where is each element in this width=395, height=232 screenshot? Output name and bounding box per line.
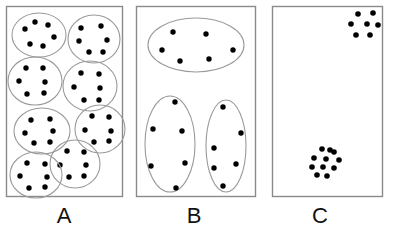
data-dot: [220, 104, 225, 109]
data-dot: [27, 41, 32, 46]
data-dot: [47, 116, 52, 121]
data-dot: [320, 164, 326, 170]
data-dot: [32, 19, 37, 24]
data-dot: [47, 139, 52, 144]
panel-a: [7, 7, 126, 199]
data-dot: [44, 174, 49, 179]
data-dot: [22, 130, 27, 135]
data-dot: [173, 185, 178, 190]
data-dot: [323, 156, 329, 162]
data-dot: [331, 165, 337, 171]
data-dot: [179, 128, 184, 133]
data-dot: [150, 126, 155, 131]
data-dot: [148, 163, 153, 168]
data-dot: [89, 113, 94, 118]
data-dot: [327, 147, 333, 153]
data-dot: [324, 173, 330, 179]
figure-svg: [0, 0, 395, 232]
data-dot: [106, 114, 111, 119]
data-dot: [83, 162, 88, 167]
data-dot: [66, 174, 71, 179]
data-dot: [98, 23, 103, 28]
data-dot: [24, 91, 29, 96]
data-dot: [24, 160, 29, 165]
data-dot: [375, 22, 381, 28]
data-dot: [206, 56, 211, 61]
data-dot: [78, 70, 83, 75]
data-dot: [22, 26, 27, 31]
data-dot: [319, 146, 325, 152]
data-dot: [41, 90, 46, 95]
data-dot: [367, 32, 373, 38]
data-dot: [177, 58, 182, 63]
data-dot: [108, 128, 113, 133]
data-dot: [16, 78, 21, 83]
data-dot: [314, 172, 320, 178]
data-dot: [86, 49, 91, 54]
data-dot: [230, 47, 235, 52]
data-dot: [182, 160, 187, 165]
data-dot: [172, 99, 177, 104]
data-dot: [17, 173, 22, 178]
data-dot: [42, 161, 47, 166]
data-dot: [81, 149, 86, 154]
data-dot: [96, 71, 101, 76]
data-dot: [104, 37, 109, 42]
data-dot: [64, 148, 69, 153]
data-dot: [238, 130, 243, 135]
data-dot: [26, 185, 31, 190]
data-dot: [309, 164, 315, 170]
panel-frame-c: [273, 7, 383, 197]
data-dot: [78, 25, 83, 30]
data-dot: [370, 10, 376, 16]
panel-b: [137, 7, 256, 197]
figure-container: ABC: [0, 0, 395, 232]
data-dot: [106, 138, 111, 143]
data-dot: [28, 117, 33, 122]
data-dot: [311, 155, 317, 161]
data-dot: [203, 31, 208, 36]
data-dot: [31, 140, 36, 145]
data-dot: [100, 49, 105, 54]
panel-label-b: B: [174, 205, 214, 227]
panel-c: [273, 7, 383, 197]
data-dot: [71, 84, 76, 89]
data-dot: [220, 183, 225, 188]
data-dot: [81, 97, 86, 102]
data-dot: [23, 65, 28, 70]
data-dot: [170, 29, 175, 34]
data-dot: [91, 139, 96, 144]
data-dot: [364, 21, 370, 27]
data-dot: [211, 165, 216, 170]
data-dot: [40, 43, 45, 48]
data-dot: [96, 97, 101, 102]
data-dot: [233, 161, 238, 166]
panel-label-c: C: [300, 205, 340, 227]
data-dot: [82, 127, 87, 132]
data-dot: [76, 38, 81, 43]
data-dot: [355, 11, 361, 17]
data-dot: [159, 47, 164, 52]
data-dot: [211, 145, 216, 150]
data-dot: [40, 65, 45, 70]
data-dot: [42, 184, 47, 189]
panel-frame-b: [137, 7, 256, 197]
data-dot: [336, 157, 342, 163]
data-dot: [50, 128, 55, 133]
panel-label-a: A: [44, 205, 84, 227]
data-dot: [81, 173, 86, 178]
panel-frame-a: [7, 7, 123, 197]
data-dot: [348, 21, 354, 27]
data-dot: [353, 32, 359, 38]
data-dot: [97, 85, 102, 90]
data-dot: [51, 34, 56, 39]
data-dot: [45, 22, 50, 27]
data-dot: [42, 79, 47, 84]
